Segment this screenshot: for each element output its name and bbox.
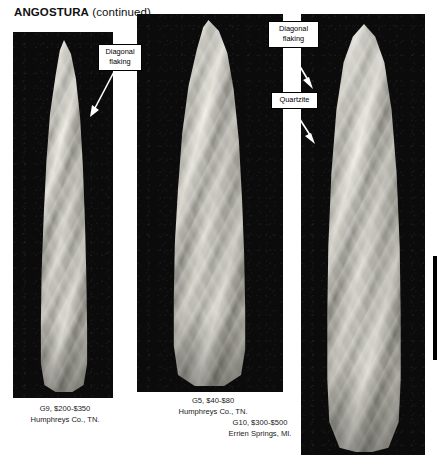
artifact-photo-plate-3 <box>301 14 425 455</box>
page-title-suffix: (continued) <box>89 6 151 18</box>
artifact-caption-1: G9, $200-$350 Humphreys Co., TN. <box>13 404 117 425</box>
scanned-page: ANGOSTURA (continued) <box>0 0 440 467</box>
page-margin-rule <box>433 256 437 360</box>
artifact-caption-3: G10, $300-$500 Errien Springs, MI. <box>218 418 302 439</box>
artifact-caption-2: G5, $40-$80 Humphreys Co., TN. <box>140 396 286 417</box>
callout-label-diagonal-flaking-left: Diagonal flaking <box>98 44 142 71</box>
callout-leader-arrow-1 <box>86 66 120 118</box>
page-title-main: ANGOSTURA <box>14 6 89 18</box>
callout-leader-arrow-2 <box>286 46 316 90</box>
callout-leader-arrow-3 <box>290 105 318 145</box>
artifact-photo-plate-2 <box>137 14 283 392</box>
callout-label-diagonal-flaking-right: Diagonal flaking <box>268 21 319 48</box>
page-title: ANGOSTURA (continued) <box>14 6 151 18</box>
callout-label-quartzite: Quartzite <box>271 92 318 109</box>
